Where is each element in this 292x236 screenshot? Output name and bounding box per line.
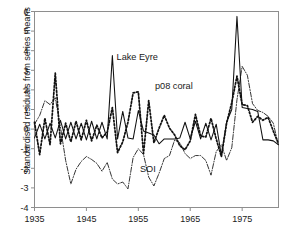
lake-eyre-label: Lake Eyre <box>117 52 158 62</box>
y-tick-label: -4 <box>20 203 28 213</box>
x-tick-label: 1965 <box>180 214 200 224</box>
y-tick-label: -1 <box>20 144 28 154</box>
x-tick-label: 1935 <box>24 214 44 224</box>
chart-plot: 6543210-1-2-3-4 19351945195519651975 Lak… <box>0 0 292 236</box>
y-tick-label: 5 <box>23 26 28 36</box>
chart-root: Standardised residuals from series means… <box>0 0 292 236</box>
y-tick-label: 3 <box>23 66 28 76</box>
soi-label: SOI <box>140 164 156 174</box>
y-tick-label: 6 <box>23 7 28 17</box>
series-lines <box>35 16 279 188</box>
y-tick-label: 0 <box>23 124 28 134</box>
y-tick-label: 2 <box>23 85 28 95</box>
series-annotations: Lake Eyrep08 coralSOI <box>117 52 193 175</box>
x-tick-label: 1945 <box>76 214 96 224</box>
x-tick-label: 1955 <box>128 214 148 224</box>
plot-frame <box>35 12 279 208</box>
y-axis-ticks: 6543210-1-2-3-4 <box>20 7 34 213</box>
y-tick-label: 1 <box>23 105 28 115</box>
x-tick-label: 1975 <box>232 214 252 224</box>
x-axis-ticks: 19351945195519651975 <box>24 208 252 224</box>
y-tick-label: 4 <box>23 46 28 56</box>
y-tick-label: -3 <box>20 183 28 193</box>
p08-coral-label: p08 coral <box>155 81 193 91</box>
y-tick-label: -2 <box>20 164 28 174</box>
